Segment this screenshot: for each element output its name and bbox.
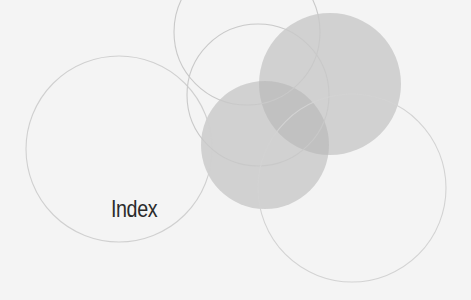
filled-circles — [201, 13, 401, 209]
section-opener-page: Index — [0, 0, 471, 300]
page-title: Index — [111, 196, 157, 222]
decorative-circles — [0, 0, 471, 300]
